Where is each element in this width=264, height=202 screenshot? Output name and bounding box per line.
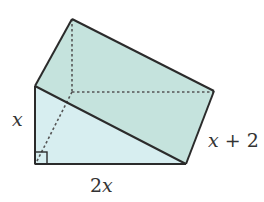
- prism-diagram: [0, 0, 264, 202]
- length-label-text: x + 2: [208, 129, 259, 151]
- height-label: x: [12, 110, 23, 129]
- base-label-text: 2x: [90, 174, 113, 196]
- length-label: x + 2: [208, 131, 259, 150]
- base-label: 2x: [90, 176, 113, 195]
